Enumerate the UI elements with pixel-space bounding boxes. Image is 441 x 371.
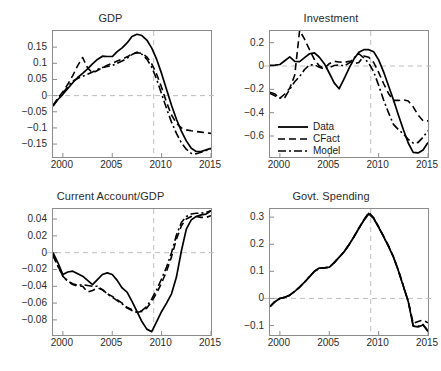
y-axis-tick-label: 0.15 xyxy=(0,41,47,52)
series-line-cfact xyxy=(53,53,211,134)
legend-line-sample xyxy=(278,134,308,144)
y-axis-tick-label: −0.06 xyxy=(0,297,47,308)
x-axis-tick-label: 2000 xyxy=(51,159,73,170)
plot-area-gdp xyxy=(52,30,212,158)
x-axis-tick-label: 2000 xyxy=(268,337,290,348)
series-line-model xyxy=(270,213,428,331)
x-axis-tick-label: 2010 xyxy=(150,159,172,170)
y-axis-tick-label: −0.05 xyxy=(0,105,47,116)
y-axis-tick-label: −0.15 xyxy=(0,138,47,149)
y-axis-tick-label: 0 xyxy=(221,60,264,71)
y-axis-tick-label: −0.6 xyxy=(221,130,264,141)
x-axis-tick-label: 2005 xyxy=(100,337,122,348)
x-axis-tick-label: 2010 xyxy=(367,159,389,170)
x-axis-tick-label: 2010 xyxy=(367,337,389,348)
x-axis-tick-label: 2000 xyxy=(51,337,73,348)
series-line-data xyxy=(53,34,211,151)
figure-2x2-timeseries-panels: GDP 0.150.10.050−0.05−0.1−0.152000200520… xyxy=(0,0,441,371)
legend-item-cfact: CFact xyxy=(278,133,340,145)
x-axis-tick-label: 2000 xyxy=(268,159,290,170)
legend: DataCFactModel xyxy=(278,121,340,157)
y-axis-tick-label: 0.1 xyxy=(221,265,264,276)
x-axis-tick-label: 2015 xyxy=(416,337,438,348)
y-axis-tick-label: 0.1 xyxy=(0,57,47,68)
series-line-data xyxy=(53,211,211,332)
panel-title-current-account-gdp: Current Account/GDP xyxy=(0,190,221,202)
panel-current-account-gdp: Current Account/GDP 0.040.020−0.02−0.04−… xyxy=(0,190,221,371)
plot-canvas xyxy=(53,31,211,157)
panel-title-investment: Investment xyxy=(221,12,441,24)
y-axis-tick-label: 0.2 xyxy=(221,36,264,47)
y-axis-tick-label: −0.02 xyxy=(0,263,47,274)
plot-canvas xyxy=(53,209,211,335)
legend-line-sample xyxy=(278,146,308,156)
y-axis-tick-label: 0.2 xyxy=(221,238,264,249)
panel-title-gdp: GDP xyxy=(0,12,221,24)
x-axis-tick-label: 2015 xyxy=(199,159,221,170)
y-axis-tick-label: 0 xyxy=(221,292,264,303)
y-axis-tick-label: −0.4 xyxy=(221,106,264,117)
y-axis-tick-label: 0.05 xyxy=(0,73,47,84)
plot-area-current-account-gdp xyxy=(52,208,212,336)
legend-label: Model xyxy=(313,145,340,157)
series-line-cfact xyxy=(53,216,211,313)
legend-label: Data xyxy=(313,121,334,133)
series-line-cfact xyxy=(270,212,428,323)
y-axis-tick-label: 0 xyxy=(0,246,47,257)
x-axis-tick-label: 2005 xyxy=(317,159,339,170)
x-axis-tick-label: 2015 xyxy=(416,159,438,170)
panel-title-govt-spending: Govt. Spending xyxy=(221,190,441,202)
x-axis-tick-label: 2005 xyxy=(317,337,339,348)
y-axis-tick-label: 0.02 xyxy=(0,229,47,240)
plot-area-govt-spending xyxy=(269,208,429,336)
legend-label: CFact xyxy=(313,133,340,145)
legend-line-sample xyxy=(278,122,308,132)
series-line-cfact xyxy=(270,30,428,120)
panel-investment: Investment 0.20−0.2−0.4−0.62000200520102… xyxy=(221,12,441,187)
plot-canvas xyxy=(270,209,428,335)
x-axis-tick-label: 2010 xyxy=(150,337,172,348)
series-line-data xyxy=(270,214,428,332)
y-axis-tick-label: 0 xyxy=(0,89,47,100)
x-axis-tick-label: 2015 xyxy=(199,337,221,348)
y-axis-tick-label: −0.2 xyxy=(221,83,264,94)
y-axis-tick-label: 0.04 xyxy=(0,213,47,224)
y-axis-tick-label: −0.1 xyxy=(0,121,47,132)
panel-gdp: GDP 0.150.10.050−0.05−0.1−0.152000200520… xyxy=(0,12,221,187)
x-axis-tick-label: 2005 xyxy=(100,159,122,170)
y-axis-tick-label: −0.08 xyxy=(0,313,47,324)
legend-item-model: Model xyxy=(278,145,340,157)
y-axis-tick-label: 0.3 xyxy=(221,211,264,222)
y-axis-tick-label: −0.1 xyxy=(221,319,264,330)
y-axis-tick-label: −0.04 xyxy=(0,280,47,291)
panel-govt-spending: Govt. Spending 0.30.20.10−0.120002005201… xyxy=(221,190,441,371)
legend-item-data: Data xyxy=(278,121,340,133)
